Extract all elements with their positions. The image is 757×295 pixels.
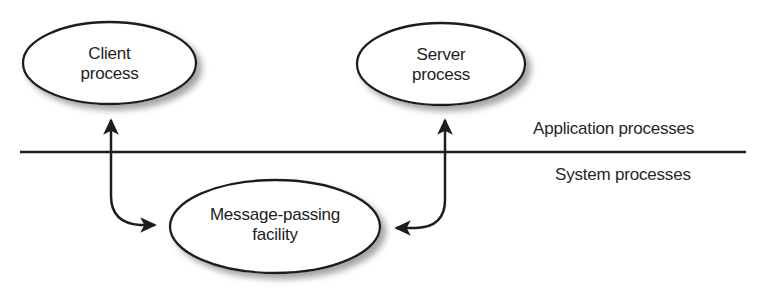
node-server-process [357,23,525,105]
diagram-canvas [0,0,757,295]
message-passing-diagram: Client process Server process Message-pa… [0,0,757,295]
node-message-passing-facility [170,180,380,273]
node-client-process [23,22,196,104]
connector-client-to-facility [111,120,155,225]
application-processes-label: Application processes [533,119,694,138]
system-processes-label: System processes [555,165,691,184]
client-process-ellipse [23,22,196,104]
message-passing-facility-ellipse [170,180,380,273]
server-process-ellipse [357,23,525,105]
connector-server-to-facility [396,120,445,228]
